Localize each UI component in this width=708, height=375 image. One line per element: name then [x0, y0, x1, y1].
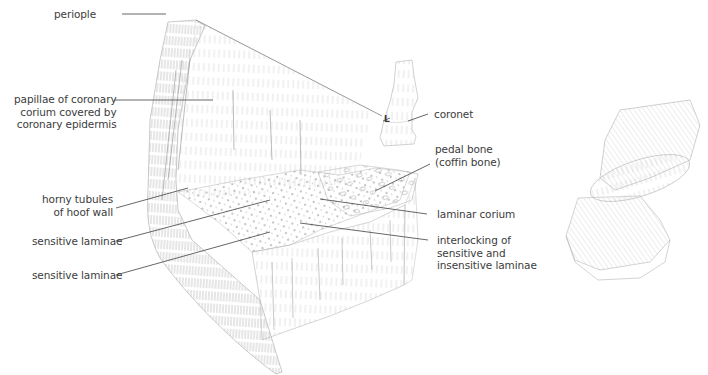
label-periople: periople — [54, 8, 96, 21]
inset-marker: L — [384, 113, 390, 126]
hoof-inset — [380, 60, 418, 146]
label-sensitive-laminae-1: sensitive laminae — [32, 235, 122, 248]
hoof-3d-sketch — [566, 100, 700, 280]
label-laminar-corium: laminar corium — [437, 208, 515, 221]
hoof-anatomy-diagram: L periople papillae of coronary corium c… — [0, 0, 708, 375]
label-pedal-bone: pedal bone (coffin bone) — [435, 143, 501, 168]
label-papillae-coronary-corium: papillae of coronary corium covered by c… — [14, 93, 117, 131]
hoof-wall-block — [148, 20, 419, 374]
label-interlocking-laminae: interlocking of sensitive and insensitiv… — [437, 234, 537, 272]
label-coronet: coronet — [434, 108, 473, 121]
label-horny-tubules: horny tubules of hoof wall — [42, 193, 113, 218]
label-sensitive-laminae-2: sensitive laminae — [32, 269, 122, 282]
illustration-layer — [0, 0, 708, 375]
